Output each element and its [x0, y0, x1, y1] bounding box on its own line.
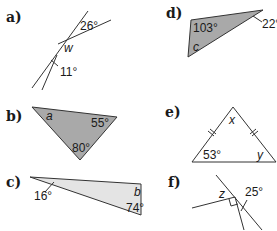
angle-label: 16° [34, 189, 52, 203]
problem-f: f) z 25° [168, 174, 263, 230]
unknown-label: y [256, 148, 264, 162]
problem-c: c) 16° b 74° [6, 174, 144, 215]
problem-e-label: e) [165, 104, 181, 120]
problem-a-label: a) [6, 9, 22, 25]
unknown-label: a [46, 109, 53, 123]
angle-label: 74° [126, 201, 144, 215]
problem-c-label: c) [6, 174, 21, 190]
angle-label: 25° [245, 185, 263, 199]
unknown-label: b [134, 185, 141, 199]
unknown-label: x [228, 113, 236, 127]
line [42, 55, 57, 90]
line [192, 197, 235, 208]
problem-b: b) a 55° 80° [6, 107, 117, 160]
angle-label: 103° [193, 21, 218, 35]
angle-label: 55° [91, 116, 109, 130]
pointer-line [253, 16, 262, 22]
problem-a: a) 26° w 11° [6, 9, 111, 90]
angle-label: 53° [203, 148, 221, 162]
angle-label: 22° [262, 17, 277, 31]
line [235, 197, 244, 230]
angle-label: 11° [60, 65, 77, 79]
unknown-label: w [64, 41, 74, 55]
problem-d-label: d) [166, 5, 182, 21]
problem-e: e) x 53° y [165, 104, 276, 162]
problem-d: d) 103° c 22° [166, 5, 277, 57]
problem-b-label: b) [6, 108, 22, 124]
unknown-label: c [193, 40, 199, 54]
angle-label: 26° [80, 19, 98, 33]
line [216, 175, 262, 230]
problem-f-label: f) [168, 174, 181, 190]
angle-label: 80° [72, 141, 90, 155]
unknown-label: z [218, 187, 225, 201]
angle-problems-figure: a) 26° w 11° b) a 55° 80° c) 16° b 74° d… [0, 0, 277, 231]
